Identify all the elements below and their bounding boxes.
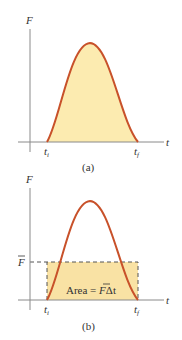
svg-text:F: F bbox=[17, 256, 25, 268]
t-final-label: tf bbox=[134, 145, 140, 159]
caption-b: (b) bbox=[82, 320, 95, 333]
impulse-diagram: F t ti tf (a) F t F ti tf Are bbox=[0, 0, 182, 340]
y-axis-label: F bbox=[25, 173, 33, 185]
area-annotation: Area = FΔt bbox=[66, 284, 116, 296]
svg-text:Area = FΔt: Area = FΔt bbox=[66, 284, 116, 296]
area-under-curve bbox=[47, 43, 138, 142]
t-final-label: tf bbox=[134, 303, 140, 317]
t-initial-label: ti bbox=[44, 303, 49, 317]
caption-a: (a) bbox=[82, 161, 95, 174]
y-axis-label: F bbox=[25, 14, 33, 26]
t-initial-label: ti bbox=[44, 145, 49, 159]
panel-b: F t F ti tf Area = FΔt (b) bbox=[17, 173, 170, 333]
x-axis-label: t bbox=[166, 136, 170, 148]
panel-a: F t ti tf (a) bbox=[18, 14, 170, 174]
avg-force-label: F bbox=[17, 256, 25, 268]
x-axis-label: t bbox=[166, 294, 170, 306]
